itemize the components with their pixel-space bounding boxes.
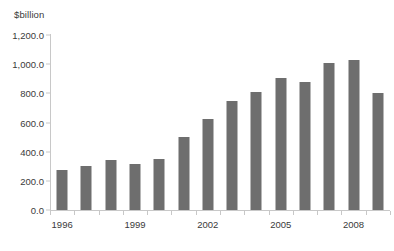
- bar[interactable]: [227, 101, 238, 210]
- y-axis-tick-label: 1,000.0: [12, 59, 50, 70]
- bar-slot: [171, 35, 195, 210]
- bar[interactable]: [129, 164, 140, 210]
- bar-slot: [196, 35, 220, 210]
- x-axis-tick-mark: [196, 211, 197, 215]
- bar-slot: [244, 35, 268, 210]
- x-axis-tick-mark: [341, 211, 342, 215]
- bar[interactable]: [105, 160, 116, 210]
- x-axis-tick-label: 2002: [197, 219, 218, 230]
- x-axis-tick-mark: [366, 211, 367, 215]
- bar-slot: [317, 35, 341, 210]
- bar[interactable]: [372, 93, 383, 210]
- bar[interactable]: [275, 78, 286, 210]
- x-axis-tick-label: 2005: [270, 219, 291, 230]
- x-axis-tick-mark: [317, 211, 318, 215]
- bar[interactable]: [178, 137, 189, 210]
- x-axis-tick-mark: [244, 211, 245, 215]
- x-axis-tick-mark: [390, 211, 391, 215]
- x-axis-tick-mark: [269, 211, 270, 215]
- bar-slot: [341, 35, 365, 210]
- plot-area: 1,200.01,000.0800.0600.0400.0200.00.0: [50, 35, 390, 210]
- bar[interactable]: [348, 60, 359, 210]
- x-axis-tick-label: 2008: [343, 219, 364, 230]
- bar-slot: [123, 35, 147, 210]
- bar-slot: [269, 35, 293, 210]
- x-axis-tick-mark: [123, 211, 124, 215]
- bar-slot: [74, 35, 98, 210]
- x-axis-tick-mark: [99, 211, 100, 215]
- bar-slot: [50, 35, 74, 210]
- bar[interactable]: [251, 92, 262, 210]
- x-axis-tick-mark: [293, 211, 294, 215]
- bar[interactable]: [299, 82, 310, 210]
- x-axis-tick-label: 1999: [124, 219, 145, 230]
- bar-slot: [220, 35, 244, 210]
- bar[interactable]: [57, 170, 68, 210]
- y-axis-tick-label: 1,200.0: [12, 30, 50, 41]
- bar-chart: $billion 1,200.01,000.0800.0600.0400.020…: [0, 0, 394, 251]
- bar-series: [50, 35, 390, 210]
- bar-slot: [99, 35, 123, 210]
- bar-slot: [366, 35, 390, 210]
- x-axis-tick-label: 1996: [52, 219, 73, 230]
- x-axis-tick-mark: [74, 211, 75, 215]
- x-axis-tick-mark: [147, 211, 148, 215]
- bar[interactable]: [81, 166, 92, 210]
- bar[interactable]: [154, 159, 165, 210]
- bar[interactable]: [202, 119, 213, 210]
- x-axis-tick-mark: [50, 211, 51, 215]
- bar[interactable]: [324, 63, 335, 210]
- y-axis-title: $billion: [14, 9, 44, 20]
- x-axis-tick-mark: [220, 211, 221, 215]
- x-axis-tick-mark: [171, 211, 172, 215]
- bar-slot: [147, 35, 171, 210]
- bar-slot: [293, 35, 317, 210]
